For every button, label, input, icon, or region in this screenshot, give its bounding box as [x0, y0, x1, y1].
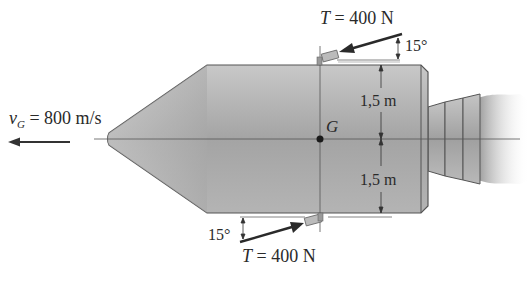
bottom-angle-dimension — [241, 218, 245, 239]
top-thruster-mount — [317, 57, 322, 65]
bottom-thrust-label: T = 400 N — [242, 246, 316, 266]
lower-dimension-label: 1,5 m — [360, 171, 397, 188]
center-label: G — [326, 117, 338, 136]
bottom-thruster-mount — [318, 213, 323, 221]
top-thrust-arrow — [339, 34, 402, 53]
upper-dimension-label: 1,5 m — [360, 92, 397, 109]
velocity-arrow — [8, 138, 70, 147]
top-angle-label: 15° — [405, 37, 427, 54]
center-of-mass-dot — [317, 136, 324, 143]
rocket-diagram: G vG = 800 m/s T = 400 N 15° T = 400 N 1… — [0, 0, 529, 288]
top-thruster-nozzle — [321, 50, 339, 62]
top-angle-dimension — [396, 38, 400, 59]
velocity-label: vG = 800 m/s — [9, 108, 102, 130]
bottom-thrust-arrow — [240, 222, 304, 242]
top-thrust-label: T = 400 N — [320, 8, 394, 28]
bottom-angle-label: 15° — [208, 226, 230, 243]
